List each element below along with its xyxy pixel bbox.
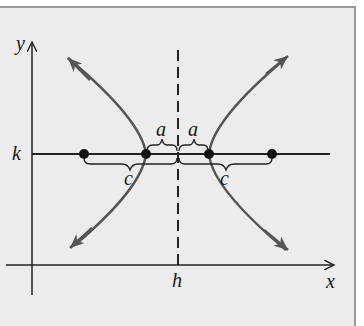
- right-lower-arrow: [264, 230, 288, 250]
- diagram-canvas: y x k h a a c c: [0, 0, 364, 326]
- right-upper-arrow: [266, 56, 288, 74]
- k-label: k: [12, 142, 22, 164]
- left-lower-arrow: [70, 228, 92, 248]
- hyperbola-diagram: y x k h a a c c: [0, 0, 364, 326]
- focus-right-point: [267, 149, 277, 159]
- c-left-label: c: [124, 167, 133, 189]
- brace-a-left: [147, 139, 177, 151]
- vertex-right-point: [204, 149, 214, 159]
- y-axis-label: y: [14, 32, 25, 55]
- brace-a-right: [179, 139, 208, 151]
- a-right-label: a: [188, 118, 198, 140]
- c-right-label: c: [220, 167, 229, 189]
- left-upper-arrow: [68, 58, 90, 80]
- focus-left-point: [79, 149, 89, 159]
- a-left-label: a: [156, 118, 166, 140]
- x-axis-label: x: [325, 270, 335, 292]
- vertex-left-point: [141, 149, 151, 159]
- h-label: h: [172, 269, 182, 291]
- hyperbola-left-branch: [68, 58, 146, 244]
